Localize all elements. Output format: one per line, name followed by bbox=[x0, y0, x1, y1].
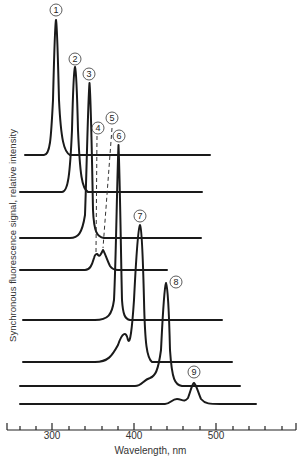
svg-text:9: 9 bbox=[191, 367, 196, 377]
peak-label-9: 9 bbox=[188, 366, 200, 378]
svg-text:8: 8 bbox=[173, 277, 178, 287]
x-axis-label: Wavelength, nm bbox=[0, 445, 301, 456]
svg-text:6: 6 bbox=[116, 131, 121, 141]
svg-text:7: 7 bbox=[137, 211, 142, 221]
spectrum-6 bbox=[23, 145, 222, 320]
x-tick-label-500: 500 bbox=[208, 430, 225, 441]
svg-text:2: 2 bbox=[72, 54, 77, 64]
spectrum-7 bbox=[23, 225, 232, 362]
spectrum-4-5 bbox=[20, 250, 167, 270]
peak-label-2: 2 bbox=[69, 53, 81, 65]
svg-text:5: 5 bbox=[109, 113, 114, 123]
spectrum-3 bbox=[20, 83, 201, 238]
peak-label-3: 3 bbox=[83, 68, 95, 80]
spectra-plot: 1 2 3 4 5 6 7 8 9 bbox=[0, 0, 301, 462]
peak-label-1: 1 bbox=[50, 4, 62, 16]
spectrum-2 bbox=[20, 67, 202, 192]
peak-label-4: 4 bbox=[92, 122, 104, 134]
x-axis bbox=[7, 423, 296, 430]
y-axis-label: Synchronous fluorescence signal, relativ… bbox=[7, 106, 18, 366]
peak-label-7: 7 bbox=[134, 210, 146, 222]
x-tick-label-400: 400 bbox=[126, 430, 143, 441]
guide-line-5 bbox=[103, 128, 112, 248]
peak-label-5: 5 bbox=[106, 112, 118, 124]
svg-text:3: 3 bbox=[86, 69, 91, 79]
svg-text:1: 1 bbox=[53, 5, 58, 15]
svg-text:4: 4 bbox=[95, 123, 100, 133]
x-tick-label-300: 300 bbox=[44, 430, 61, 441]
peak-label-8: 8 bbox=[170, 276, 182, 288]
peak-label-6: 6 bbox=[113, 130, 125, 142]
